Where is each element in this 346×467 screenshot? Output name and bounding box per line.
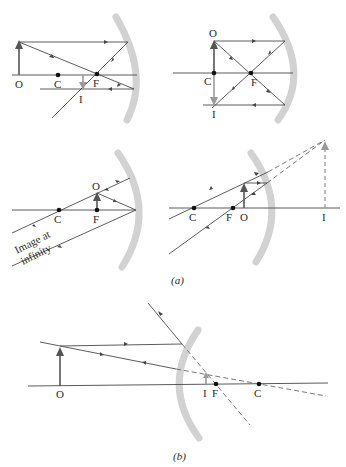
label-image: I [212,108,216,120]
label-object: O [92,180,100,192]
label-image: I [79,93,83,105]
label-center: C [204,75,211,87]
panel-a4: C F O I [169,140,340,262]
label-center: C [254,387,261,399]
label-center: C [54,78,61,90]
label-image: I [322,211,326,223]
panel-a2: O C F I [173,17,294,120]
label-object: O [56,388,64,400]
label-focus: F [251,76,257,88]
caption-a: (a) [171,274,184,287]
focal-point [95,72,100,77]
label-focus: F [93,213,99,225]
caption-b: (b) [173,450,186,463]
panel-a3: O C F Image at infinity [12,153,139,267]
panel-a1: O C F I [12,17,137,120]
label-focus: F [226,211,232,223]
label-focus: F [93,77,99,89]
label-center: C [54,213,61,225]
label-image: I [203,387,207,399]
label-focus: F [212,387,218,399]
label-object: O [209,27,217,39]
ray-diagram: O C F I O C F I [0,0,346,467]
concave-mirror [116,17,136,120]
panel-b: O I F C [28,303,328,438]
label-object: O [240,211,248,223]
label-object: O [15,78,23,90]
label-center: C [189,211,196,223]
center-point [56,73,61,78]
